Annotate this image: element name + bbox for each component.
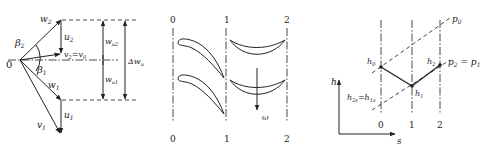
turbine-stage-diagram: 0 w2 β2 β1 u2 v2=v0 w1 u1 v1 wu2 wu1 Δwu…: [0, 0, 487, 155]
hs-station-0: 0: [378, 120, 384, 130]
s-axis-label: s: [397, 136, 402, 146]
v1-label: v1: [37, 120, 46, 131]
wu2-label: wu2: [105, 37, 118, 47]
rotor-blade-upper: [230, 40, 285, 54]
stator-blade-upper: [178, 39, 224, 78]
h2-label: h2: [427, 57, 435, 67]
v2-equals-v0-label: v2=v0: [64, 50, 87, 60]
u1-label: u1: [64, 110, 74, 121]
blade-cascade-panel: 0 1 2 0 1 2 ω: [170, 15, 290, 144]
point-h1: [410, 84, 414, 88]
w2-vector: [20, 20, 61, 60]
stator-blade-lower: [178, 75, 224, 114]
delta-wu-label: Δwu: [127, 57, 144, 67]
point-h2: [438, 63, 442, 67]
station-bottom-2: 2: [284, 134, 290, 144]
hs-station-1: 1: [409, 120, 415, 130]
h-axis-label: h: [331, 77, 337, 87]
h1-label: h1: [415, 89, 423, 99]
h2s-equals-h1s-label: h2s=h1s: [347, 93, 376, 103]
station-bottom-1: 1: [224, 134, 230, 144]
hs-station-2: 2: [437, 120, 443, 130]
point-h0: [379, 65, 383, 69]
omega-label: ω: [262, 113, 269, 122]
station-top-0: 0: [170, 15, 176, 25]
w1-label: w1: [48, 80, 60, 91]
beta1-label: β1: [36, 64, 47, 76]
process-path: [381, 65, 440, 86]
beta2-label: β2: [14, 37, 25, 49]
w2-label: w2: [40, 14, 52, 25]
station-top-2: 2: [284, 15, 290, 25]
velocity-triangle-panel: 0 w2 β2 β1 u2 v2=v0 w1 u1 v1 wu2 wu1 Δwu: [6, 14, 144, 133]
hs-diagram-panel: h s 0 1 2 h0 h1 h2 h2s=h1s p0 p2 = p1: [331, 14, 480, 146]
origin-label: 0: [6, 59, 12, 70]
station-top-1: 1: [224, 15, 230, 25]
p2-equals-p1-label: p2 = p1: [448, 57, 480, 68]
h0-label: h0: [367, 57, 376, 67]
p0-label: p0: [452, 14, 462, 25]
u2-label: u2: [64, 32, 74, 43]
station-bottom-0: 0: [170, 134, 176, 144]
wu1-label: wu1: [105, 75, 118, 85]
